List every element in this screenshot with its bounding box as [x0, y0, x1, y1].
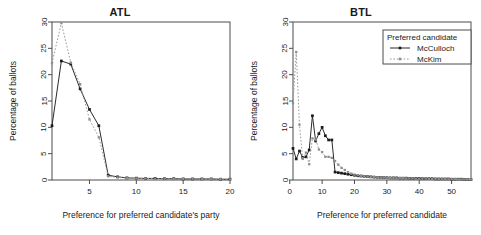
x-tick-label: 20: [350, 187, 359, 196]
data-point: [447, 178, 449, 180]
data-point: [51, 124, 54, 127]
data-point: [337, 164, 339, 166]
data-point: [467, 178, 469, 180]
data-point: [334, 160, 336, 162]
data-point: [457, 178, 459, 180]
data-point: [298, 124, 300, 126]
data-point: [431, 178, 433, 180]
data-point: [324, 156, 326, 158]
data-point: [337, 171, 340, 174]
data-point: [308, 149, 311, 152]
data-point: [441, 178, 443, 180]
y-tick-label: 10: [281, 122, 290, 131]
data-point: [173, 178, 175, 180]
data-point: [412, 177, 414, 179]
data-point: [434, 178, 436, 180]
data-point: [51, 62, 53, 64]
data-point: [331, 157, 333, 159]
legend-label-mckim: McKim: [417, 55, 442, 64]
data-point: [370, 176, 372, 178]
data-point: [347, 173, 350, 176]
data-point: [402, 177, 404, 179]
x-tick-label: 5: [87, 187, 92, 196]
data-point: [324, 134, 327, 137]
data-point: [379, 176, 381, 178]
y-tick-label: 30: [40, 17, 49, 26]
data-point: [428, 178, 430, 180]
data-point: [463, 178, 465, 180]
data-point: [321, 151, 323, 153]
data-point: [330, 139, 333, 142]
legend-label-mcculloch: McCulloch: [417, 44, 454, 53]
data-point: [210, 178, 212, 180]
plot-frame: [52, 22, 230, 180]
data-point: [79, 83, 81, 85]
data-point: [376, 176, 378, 178]
data-point: [421, 178, 423, 180]
x-tick-label: 30: [382, 187, 391, 196]
data-point: [201, 178, 203, 180]
panel-btl: BTL 05101520253001020304050Preference fo…: [241, 0, 481, 235]
x-tick-label: 40: [415, 187, 424, 196]
data-point: [350, 173, 352, 175]
y-tick-label: 5: [40, 151, 49, 156]
data-point: [305, 151, 307, 153]
y-tick-label: 20: [40, 70, 49, 79]
data-point: [97, 124, 100, 127]
legend-marker: [399, 58, 402, 61]
legend-title: Preferred candidate: [387, 33, 458, 42]
data-point: [311, 114, 314, 117]
data-point: [311, 137, 313, 139]
data-point: [327, 156, 329, 158]
y-axis-title: Percentage of ballots: [8, 61, 18, 141]
data-point: [450, 178, 452, 180]
data-point: [70, 61, 72, 63]
data-point: [353, 174, 355, 176]
data-point: [219, 178, 221, 180]
data-point: [295, 158, 298, 161]
data-point: [405, 177, 407, 179]
data-point: [363, 175, 365, 177]
data-point: [382, 176, 384, 178]
data-point: [399, 177, 401, 179]
data-point: [366, 175, 368, 177]
data-point: [392, 177, 394, 179]
series-line-mckim: [52, 23, 230, 179]
y-tick-label: 30: [281, 17, 290, 26]
y-tick-label: 0: [40, 177, 49, 182]
data-point: [229, 178, 231, 180]
plot-atl: 0510152025305101520Preference for prefer…: [0, 0, 240, 235]
data-point: [116, 176, 118, 178]
y-tick-label: 15: [40, 96, 49, 105]
data-point: [334, 171, 337, 174]
data-point: [295, 51, 297, 53]
y-tick-label: 15: [281, 96, 290, 105]
data-point: [135, 177, 137, 179]
y-tick-label: 0: [281, 177, 290, 182]
data-point: [408, 177, 410, 179]
data-point: [308, 163, 310, 165]
data-point: [347, 171, 349, 173]
figure-container: ATL 0510152025305101520Preference for pr…: [0, 0, 481, 235]
data-point: [107, 175, 109, 177]
series-line-mcculloch: [52, 61, 230, 179]
data-point: [302, 158, 304, 160]
data-point: [126, 177, 128, 179]
x-tick-label: 50: [447, 187, 456, 196]
data-point: [60, 60, 63, 63]
y-tick-label: 20: [281, 70, 290, 79]
x-tick-label: 20: [226, 187, 235, 196]
data-point: [340, 167, 342, 169]
data-point: [437, 178, 439, 180]
panel-atl: ATL 0510152025305101520Preference for pr…: [0, 0, 240, 235]
data-point: [298, 150, 301, 153]
data-point: [321, 126, 324, 129]
series-line-mcculloch: [293, 116, 471, 180]
x-tick-label: 15: [179, 187, 188, 196]
x-axis-title: Preference for preferred candidate's par…: [62, 210, 220, 220]
data-point: [292, 102, 294, 104]
data-point: [318, 148, 320, 150]
plot-btl: 05101520253001020304050Preference for pr…: [241, 0, 481, 235]
data-point: [88, 108, 91, 111]
data-point: [340, 172, 343, 175]
